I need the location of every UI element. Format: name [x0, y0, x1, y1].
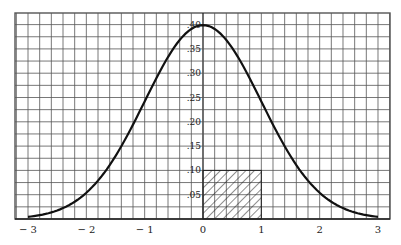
y-tick-label: .10: [187, 165, 202, 175]
x-tick-label: − 3: [19, 224, 37, 235]
x-tick-label: 1: [258, 224, 264, 235]
y-tick-label: .05: [187, 190, 202, 200]
x-tick-label: 2: [316, 224, 322, 235]
hatched-area: [203, 170, 261, 219]
x-tick-label: 0: [200, 224, 206, 235]
x-tick-label: − 1: [136, 224, 154, 235]
y-tick-label: .30: [187, 68, 202, 78]
y-tick-label: .20: [187, 117, 202, 127]
x-tick-label: 3: [375, 224, 381, 235]
y-tick-label: .40: [187, 20, 202, 30]
normal-curve-chart: .05.10.15.20.25.30.35.40 − 3− 2− 10123: [0, 0, 401, 245]
y-tick-label: .15: [187, 141, 202, 151]
y-tick-label: .25: [187, 93, 202, 103]
x-axis-labels: − 3− 2− 10123: [19, 224, 381, 235]
x-tick-label: − 2: [77, 224, 95, 235]
y-tick-label: .35: [187, 44, 202, 54]
